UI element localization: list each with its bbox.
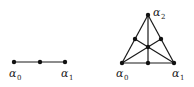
label-a2: α <box>153 6 161 19</box>
label-a0: α <box>116 67 124 80</box>
midpoint-a1a2 <box>159 37 163 41</box>
label-a2-sub: 2 <box>161 13 165 21</box>
barycenter <box>146 45 150 49</box>
vertex-a1 <box>172 61 176 65</box>
label-a1-sub: 1 <box>180 74 184 82</box>
midpoint-a0a1 <box>146 61 150 65</box>
vertex-a2 <box>146 13 150 17</box>
label-a1: α <box>61 67 69 80</box>
label-a0-sub: 0 <box>124 74 128 82</box>
barycentric-diagram: α 0 α 1 α 2 α 0 α 1 <box>0 0 194 87</box>
midpoint-a0a2 <box>133 37 137 41</box>
simplex-2: α 2 α 0 α 1 <box>116 6 184 82</box>
vertex-a0 <box>12 60 16 64</box>
vertex-a1 <box>63 60 67 64</box>
label-a1-sub: 1 <box>69 74 73 82</box>
label-a0-sub: 0 <box>17 74 21 82</box>
simplex-1: α 0 α 1 <box>9 60 73 82</box>
label-a0: α <box>9 67 17 80</box>
vertex-a0 <box>120 61 124 65</box>
midpoint <box>38 60 42 64</box>
label-a1: α <box>172 67 180 80</box>
